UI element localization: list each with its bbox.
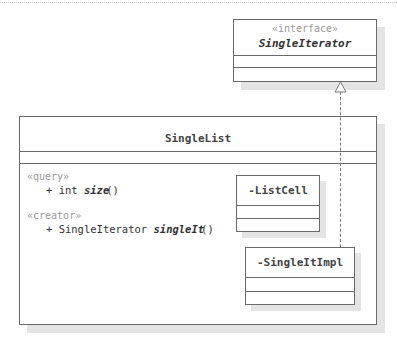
- hollow-triangle-arrow-icon: [334, 81, 347, 93]
- top-dotted-border: [0, 2, 397, 3]
- return-type: int: [59, 184, 78, 196]
- visibility: +: [46, 223, 52, 235]
- class-box-listcell[interactable]: -ListCell: [236, 175, 320, 232]
- attribute-divider: [237, 205, 319, 206]
- params: (): [106, 184, 119, 196]
- stereotype-creator: «creator»: [27, 210, 81, 221]
- visibility: +: [46, 184, 52, 196]
- class-name: -ListCell: [237, 184, 319, 197]
- attribute-divider: [20, 151, 376, 152]
- params: (): [201, 223, 214, 235]
- attribute-divider: [234, 55, 376, 56]
- operation-singleit[interactable]: + SingleIterator singleIt(): [46, 223, 214, 235]
- class-name: SingleList: [20, 132, 376, 145]
- class-name: -SingleItImpl: [246, 256, 354, 269]
- interface-name: SingleIterator: [234, 37, 376, 50]
- operation-divider: [246, 291, 354, 292]
- stereotype-query: «query»: [27, 171, 69, 182]
- operation-divider: [20, 163, 376, 164]
- operation-size[interactable]: + int size(): [46, 184, 119, 196]
- realization-line: [340, 92, 341, 247]
- interface-box-singleiterator[interactable]: «interface» SingleIterator: [233, 19, 377, 82]
- operation-divider: [237, 218, 319, 219]
- class-box-singleitimpl[interactable]: -SingleItImpl: [245, 247, 355, 305]
- return-type: SingleIterator: [59, 223, 148, 235]
- operation-name: singleIt: [154, 223, 205, 235]
- interface-stereotype: «interface»: [234, 23, 376, 34]
- operation-divider: [234, 67, 376, 68]
- attribute-divider: [246, 277, 354, 278]
